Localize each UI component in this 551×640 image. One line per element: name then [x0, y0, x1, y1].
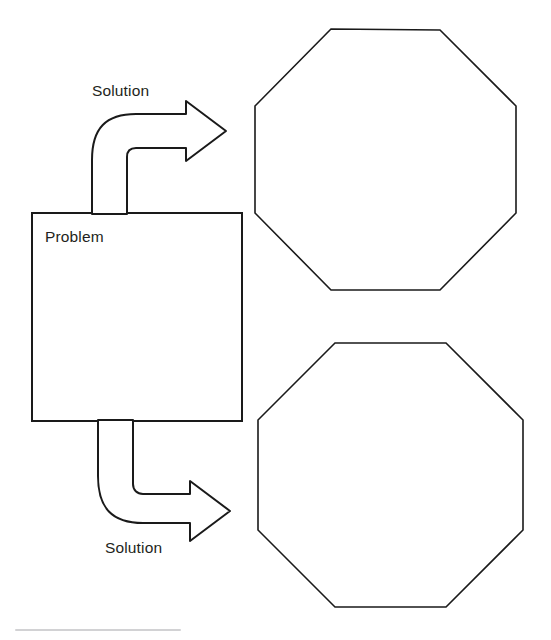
solution-arrow-bottom-label: Solution: [105, 540, 162, 556]
solution-arrow-top-label: Solution: [92, 83, 149, 99]
problem-box-label: Problem: [45, 229, 104, 245]
diagram-canvas: Problem Solution Solution: [0, 0, 551, 640]
octagon-bottom[interactable]: [258, 343, 523, 607]
footer-rule: [15, 629, 181, 631]
solution-arrow-top[interactable]: [92, 101, 226, 214]
diagram-vector-layer: [0, 0, 551, 640]
solution-arrow-bottom[interactable]: [98, 420, 230, 541]
octagon-top[interactable]: [255, 29, 516, 290]
